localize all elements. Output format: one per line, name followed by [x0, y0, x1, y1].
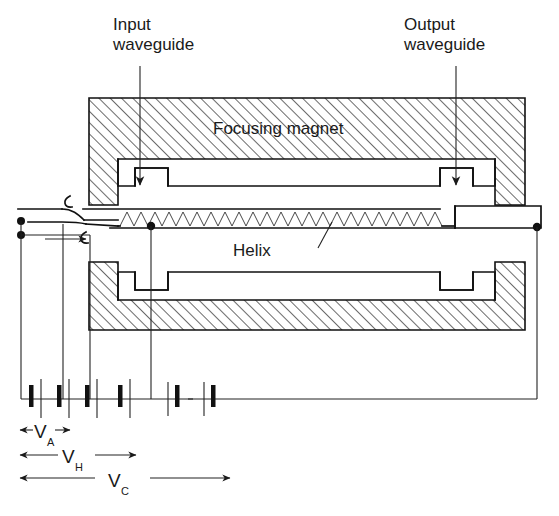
va-base: V: [34, 421, 47, 442]
twt-schematic-figure: Input waveguide Output waveguide Focusin…: [0, 0, 559, 516]
voltage-labels: V A V H V C: [34, 421, 129, 497]
battery-chain: [21, 379, 537, 418]
tube-envelope: [83, 159, 495, 300]
input-waveguide-label-line1: Input: [113, 15, 151, 34]
focusing-magnet-label: Focusing magnet: [213, 119, 344, 138]
va-label: V A: [34, 421, 55, 448]
output-waveguide-label-line2: waveguide: [403, 35, 485, 54]
vh-label: V H: [62, 446, 83, 473]
helix-label: Helix: [233, 241, 271, 260]
vh-subscript: H: [75, 461, 83, 473]
vh-base: V: [62, 446, 75, 467]
input-waveguide-label-line2: waveguide: [112, 35, 194, 54]
helix-structure: [118, 212, 455, 226]
output-waveguide-label-line1: Output: [404, 15, 455, 34]
diagram-canvas: Input waveguide Output waveguide Focusin…: [0, 0, 559, 516]
va-subscript: A: [47, 436, 55, 448]
vc-subscript: C: [121, 485, 129, 497]
vc-base: V: [108, 470, 121, 491]
focusing-magnet-upper-block: [89, 98, 525, 205]
vc-label: V C: [108, 470, 129, 497]
output-waveguide-port: [440, 168, 473, 290]
